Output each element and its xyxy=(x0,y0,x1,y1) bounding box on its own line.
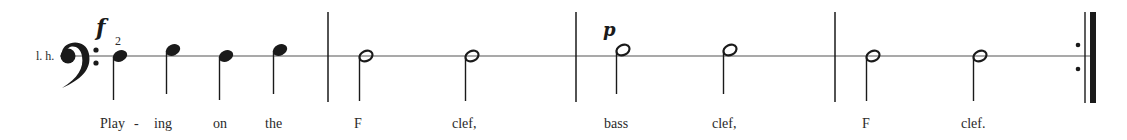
lyric-syllable: clef, xyxy=(712,116,736,132)
lyric-syllable: F xyxy=(862,116,870,132)
lyric-syllable: F xyxy=(354,116,362,132)
lyric-syllable: the xyxy=(265,116,282,132)
lyric-syllable: ing xyxy=(154,116,172,132)
lyric-syllable: on xyxy=(213,116,227,132)
lyric-syllable: Play xyxy=(100,116,125,132)
lyric-syllable: bass xyxy=(604,116,628,132)
bass-clef-icon xyxy=(61,43,99,89)
note-quarter xyxy=(271,42,289,94)
note-quarter xyxy=(217,48,235,100)
end-repeat-barline xyxy=(1076,12,1096,103)
fingering-number: 2 xyxy=(115,34,121,49)
lyric-syllable: clef, xyxy=(452,116,476,132)
dynamic-piano: p xyxy=(603,19,616,40)
note-quarter xyxy=(111,48,129,100)
music-staff: l. h. f 2 p Play - ing on the F clef, ba… xyxy=(0,0,1127,140)
dynamic-forte: f xyxy=(96,14,105,40)
lyric-syllable: clef. xyxy=(961,116,985,132)
note-half xyxy=(722,43,739,94)
lyric-hyphen: - xyxy=(134,116,139,132)
note-half xyxy=(615,43,632,94)
note-quarter xyxy=(164,42,182,94)
hand-label: l. h. xyxy=(36,49,54,64)
